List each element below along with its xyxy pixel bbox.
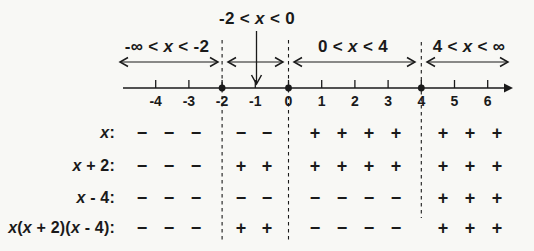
- axis-tick-label: 4: [407, 93, 435, 109]
- axis-tick-label: 2: [341, 93, 369, 109]
- sign-cell: +: [386, 122, 406, 144]
- sign-cell: +: [487, 155, 507, 177]
- sign-cell: +: [257, 217, 277, 239]
- axis-tick-label: -2: [208, 93, 236, 109]
- sign-cell: −: [159, 187, 179, 209]
- sign-cell: +: [305, 122, 325, 144]
- sign-cell: −: [159, 122, 179, 144]
- sign-cell: +: [487, 217, 507, 239]
- axis-tick-label: 1: [308, 93, 336, 109]
- sign-cell: +: [332, 122, 352, 144]
- interval-label-0-to-4: 0 < x < 4: [318, 37, 388, 56]
- axis-tick-label: 3: [374, 93, 402, 109]
- sign-cell: +: [305, 155, 325, 177]
- sign-cell: −: [386, 217, 406, 239]
- sign-cell: −: [132, 122, 152, 144]
- row-label-x-minus-4: x - 4:: [76, 188, 115, 208]
- sign-cell: +: [487, 187, 507, 209]
- axis-tick-label: -1: [241, 93, 269, 109]
- row-label-x: x:: [100, 123, 115, 143]
- sign-cell: −: [332, 187, 352, 209]
- sign-cell: +: [460, 187, 480, 209]
- sign-cell: −: [359, 217, 379, 239]
- sign-cell: +: [231, 155, 251, 177]
- number-line-arrowhead: [504, 84, 513, 93]
- sign-cell: +: [386, 155, 406, 177]
- sign-cell: −: [132, 187, 152, 209]
- sign-cell: −: [186, 155, 206, 177]
- sign-cell: −: [186, 122, 206, 144]
- sign-cell: −: [231, 122, 251, 144]
- sign-cell: +: [433, 217, 453, 239]
- sign-cell: −: [386, 187, 406, 209]
- sign-cell: −: [132, 217, 152, 239]
- sign-cell: +: [487, 122, 507, 144]
- axis-tick-label: 6: [474, 93, 502, 109]
- sign-cell: +: [433, 187, 453, 209]
- sign-cell: +: [231, 217, 251, 239]
- callout-interval-label: -2 < x < 0: [219, 9, 295, 28]
- sign-cell: −: [305, 187, 325, 209]
- sign-cell: +: [359, 155, 379, 177]
- sign-cell: −: [159, 217, 179, 239]
- sign-cell: +: [359, 122, 379, 144]
- axis-tick-label: -4: [142, 93, 170, 109]
- sign-cell: +: [433, 155, 453, 177]
- sign-cell: +: [460, 217, 480, 239]
- sign-cell: −: [132, 155, 152, 177]
- sign-cell: +: [460, 122, 480, 144]
- row-label-x-plus-2: x + 2:: [72, 156, 115, 176]
- interval-label-4-to-inf: 4 < x < ∞: [433, 37, 506, 56]
- row-label-product: x(x + 2)(x - 4):: [8, 218, 115, 238]
- sign-cell: −: [186, 217, 206, 239]
- axis-tick-label: 0: [275, 93, 303, 109]
- sign-analysis-diagram: -2 < x < 0 -∞ < x < -2 0 < x < 4 4 < x <…: [0, 0, 534, 251]
- sign-cell: +: [460, 155, 480, 177]
- axis-tick-label: 5: [441, 93, 469, 109]
- sign-cell: −: [257, 187, 277, 209]
- sign-cell: +: [332, 155, 352, 177]
- sign-cell: −: [231, 187, 251, 209]
- sign-cell: −: [257, 122, 277, 144]
- sign-cell: −: [332, 217, 352, 239]
- sign-cell: −: [359, 187, 379, 209]
- sign-cell: +: [433, 122, 453, 144]
- sign-cell: +: [257, 155, 277, 177]
- sign-cell: −: [186, 187, 206, 209]
- sign-cell: −: [305, 217, 325, 239]
- interval-label-neg-inf-to-neg2: -∞ < x < -2: [125, 37, 209, 56]
- sign-cell: −: [159, 155, 179, 177]
- axis-tick-label: -3: [175, 93, 203, 109]
